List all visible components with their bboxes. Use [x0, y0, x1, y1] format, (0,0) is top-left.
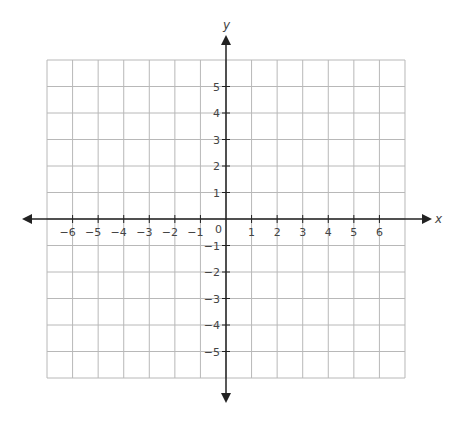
y-tick-label: 5: [213, 81, 220, 94]
x-tick-label: 1: [248, 226, 255, 239]
x-tick-label: −4: [111, 226, 127, 239]
x-tick-label: −1: [187, 226, 203, 239]
x-tick-label: −3: [136, 226, 152, 239]
x-tick-label: 5: [350, 226, 357, 239]
y-tick-label: 2: [213, 160, 220, 173]
x-tick-label: −5: [85, 226, 101, 239]
y-tick-label: 1: [213, 187, 220, 200]
x-tick-label: −6: [59, 226, 75, 239]
x-tick-label: 3: [299, 226, 306, 239]
y-tick-label: 3: [213, 134, 220, 147]
y-tick-label: 4: [213, 107, 220, 120]
y-axis-label: y: [222, 18, 231, 32]
y-tick-label: −4: [204, 319, 220, 332]
y-tick-label: −3: [204, 293, 220, 306]
x-tick-label: 6: [376, 226, 383, 239]
y-axis-down-arrow-icon: [221, 393, 231, 403]
x-tick-label: −2: [162, 226, 178, 239]
y-axis-up-arrow-icon: [221, 35, 231, 45]
y-tick-label: −2: [204, 266, 220, 279]
x-tick-label: 2: [274, 226, 281, 239]
x-axis-left-arrow-icon: [22, 214, 32, 224]
origin-label: 0: [215, 223, 222, 236]
x-tick-label: 4: [325, 226, 332, 239]
y-tick-label: −5: [204, 346, 220, 359]
y-tick-label: −1: [204, 240, 220, 253]
coordinate-plane: x y 0 −6−5−4−3−2−112345654321−1−2−3−4−5: [0, 0, 456, 430]
x-axis-label: x: [434, 212, 443, 226]
x-axis-right-arrow-icon: [422, 214, 432, 224]
